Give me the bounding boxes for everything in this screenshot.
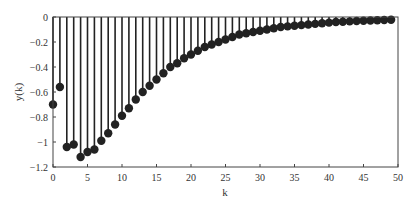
stem-marker: [76, 153, 84, 161]
y-tick-label: −1: [37, 137, 48, 148]
x-axis-label: k: [222, 186, 228, 198]
axes: 051015202530354045500−0.2−0.4−0.6−0.8−1−…: [30, 12, 403, 184]
x-tick-label: 5: [85, 172, 90, 183]
x-tick-label: 35: [290, 172, 300, 183]
x-tick-label: 25: [221, 172, 231, 183]
stem-marker: [152, 75, 160, 83]
stem-marker: [56, 83, 64, 91]
stem-marker: [132, 95, 140, 103]
stem-marker: [139, 88, 147, 96]
y-tick-label: −0.6: [30, 87, 48, 98]
x-tick-label: 30: [255, 172, 265, 183]
stem-marker: [104, 129, 112, 137]
stem-marker: [125, 104, 133, 112]
y-tick-label: −0.4: [30, 62, 48, 73]
x-tick-label: 20: [186, 172, 196, 183]
y-tick-label: −0.8: [30, 112, 48, 123]
stem-marker: [159, 69, 167, 77]
x-tick-label: 50: [393, 172, 403, 183]
x-tick-label: 15: [152, 172, 162, 183]
stem-marker: [145, 82, 153, 90]
y-axis-label: y(k): [12, 83, 25, 102]
y-tick-label: 0: [43, 12, 48, 23]
stem-marker: [111, 120, 119, 128]
y-tick-label: −0.2: [30, 37, 48, 48]
stem-chart: 051015202530354045500−0.2−0.4−0.6−0.8−1−…: [0, 0, 414, 212]
stem-marker: [70, 140, 78, 148]
x-tick-label: 45: [359, 172, 369, 183]
x-tick-label: 40: [324, 172, 334, 183]
x-tick-label: 10: [117, 172, 127, 183]
stem-marker: [90, 145, 98, 153]
stem-marker: [118, 112, 126, 120]
stem-marker: [97, 137, 105, 145]
stem-series: [49, 16, 396, 162]
chart-canvas: 051015202530354045500−0.2−0.4−0.6−0.8−1−…: [0, 0, 414, 212]
stem-marker: [173, 59, 181, 67]
x-tick-label: 0: [51, 172, 56, 183]
y-tick-label: −1.2: [30, 162, 48, 173]
